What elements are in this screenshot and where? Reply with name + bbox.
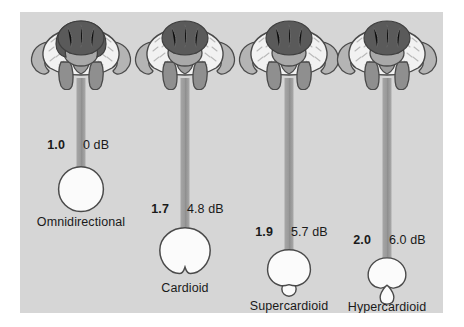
supercardioid-polar-pattern	[262, 248, 316, 298]
figure-canvas: 1.0 0 dB Omnidirectional	[0, 0, 464, 327]
pattern-column-hypercardioid: 2.0 6.0 dB Hypercardioid	[333, 12, 441, 313]
omnidirectional-polar-pattern	[53, 163, 109, 219]
distance-factor-value: 1.9	[230, 225, 282, 239]
pattern-column-omnidirectional: 1.0 0 dB Omnidirectional	[27, 12, 135, 313]
pattern-caption: Hypercardioid	[317, 300, 443, 313]
mic-stem	[383, 78, 392, 260]
mic-stem	[181, 78, 190, 230]
pattern-column-supercardioid: 1.9 5.7 dB Supercardioid	[235, 12, 343, 313]
hypercardioid-polar-pattern	[363, 256, 411, 306]
cardioid-polar-pattern	[155, 226, 215, 282]
diagram-panel: 1.0 0 dB Omnidirectional	[20, 12, 443, 313]
mic-stem	[77, 78, 86, 170]
distance-factor-value: 1.7	[126, 202, 178, 216]
pattern-caption: Cardioid	[115, 281, 255, 295]
pattern-column-cardioid: 1.7 4.8 dB Cardioid	[131, 12, 239, 313]
distance-factor-value: 2.0	[328, 233, 380, 247]
distance-factor-value: 1.0	[22, 138, 74, 152]
mic-stem	[285, 78, 294, 252]
